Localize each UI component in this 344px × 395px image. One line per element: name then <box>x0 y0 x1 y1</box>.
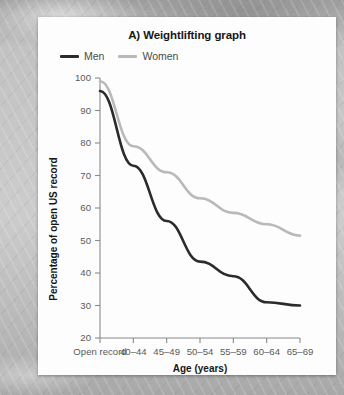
x-tick-label: 45–49 <box>153 346 180 357</box>
y-tick-label: 80 <box>80 137 91 148</box>
x-tick-label: 60–64 <box>253 346 280 357</box>
y-tick-label: 90 <box>80 105 91 116</box>
y-tick-group: 2030405060708090100 <box>75 72 100 343</box>
line-chart: Percentage of open US record 20304050607… <box>38 17 336 375</box>
y-tick-label: 70 <box>80 170 91 181</box>
x-tick-label: 40–44 <box>120 346 147 357</box>
x-axis-title: Age (years) <box>173 363 227 374</box>
y-tick-label: 100 <box>75 72 91 83</box>
y-tick-label: 60 <box>80 202 91 213</box>
x-tick-label: 65–69 <box>287 346 314 357</box>
y-tick-label: 50 <box>80 235 91 246</box>
x-tick-label: 50–54 <box>187 346 214 357</box>
y-tick-label: 40 <box>80 267 91 278</box>
chart-card: A) Weightlifting graph Men Women Percent… <box>38 17 336 375</box>
x-tick-label: Open record <box>73 346 126 357</box>
y-axis-title: Percentage of open US record <box>48 157 59 300</box>
y-tick-label: 20 <box>80 332 91 343</box>
x-tick-group: Open record40–4445–4950–5455–5960–6465–6… <box>73 338 313 357</box>
series-group <box>100 81 300 305</box>
series-line-women <box>100 81 300 235</box>
y-tick-label: 30 <box>80 300 91 311</box>
x-tick-label: 55–59 <box>220 346 247 357</box>
